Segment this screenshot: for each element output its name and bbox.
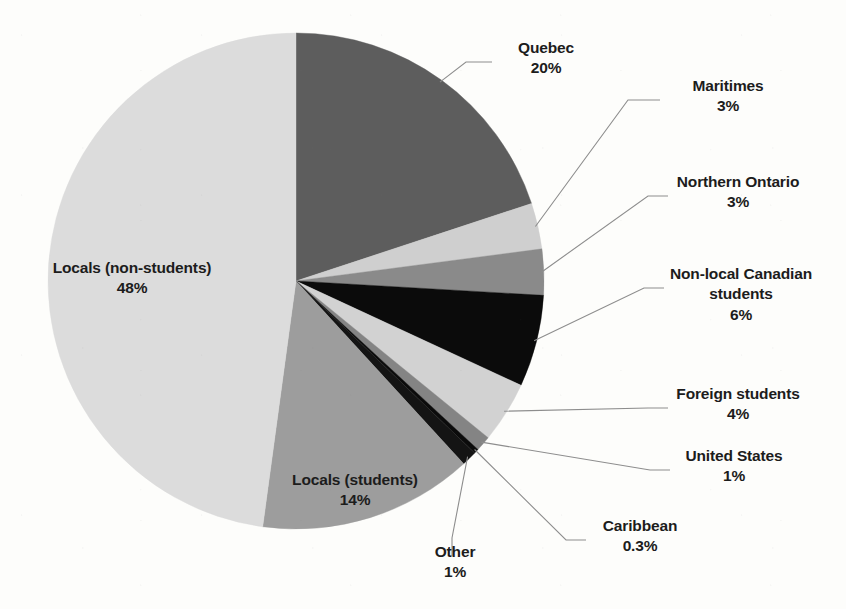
slice-label-united-states-name: United States [685, 447, 782, 464]
slice-label-locals-non-students-value: 48% [26, 278, 238, 298]
slice-label-foreign-students-value: 4% [660, 404, 816, 424]
leader-line [504, 408, 668, 411]
slice-label-caribbean-name: Caribbean [603, 517, 677, 534]
slice-label-northern-ontario: Northern Ontario 3% [658, 172, 818, 213]
slice-label-caribbean-value: 0.3% [578, 536, 702, 556]
slice-label-united-states-value: 1% [664, 466, 804, 486]
slice-label-northern-ontario-name: Northern Ontario [677, 173, 799, 190]
slice-label-united-states: United States 1% [664, 446, 804, 487]
slice-label-quebec-value: 20% [492, 58, 600, 78]
slice-label-quebec: Quebec 20% [492, 38, 600, 79]
slice-label-locals-non-students: Locals (non-students) 48% [26, 258, 238, 299]
slice-label-non-local-canadian-students-line2: students [656, 284, 826, 304]
slice-label-maritimes-value: 3% [666, 96, 790, 116]
slice-label-foreign-students-name: Foreign students [676, 385, 799, 402]
slice-label-other-name: Other [435, 543, 476, 560]
slice-label-northern-ontario-value: 3% [658, 192, 818, 212]
slice-label-quebec-name: Quebec [518, 39, 574, 56]
slice-label-foreign-students: Foreign students 4% [660, 384, 816, 425]
slice-label-locals-students-name: Locals (students) [292, 471, 418, 488]
leader-line [535, 100, 660, 227]
leader-line [534, 288, 664, 341]
slice-label-other-value: 1% [410, 562, 500, 582]
leader-line [481, 442, 670, 470]
slice-label-other: Other 1% [410, 542, 500, 583]
slice-label-locals-non-students-name: Locals (non-students) [53, 259, 212, 276]
slice-label-maritimes: Maritimes 3% [666, 76, 790, 117]
slice-label-non-local-canadian-students-value: 6% [656, 305, 826, 325]
slice-label-non-local-canadian-students: Non-local Canadian students 6% [656, 264, 826, 325]
slice-label-caribbean: Caribbean 0.3% [578, 516, 702, 557]
slice-label-locals-students-value: 14% [274, 490, 436, 510]
leader-line [440, 62, 492, 82]
slice-label-non-local-canadian-students-line1: Non-local Canadian [670, 265, 812, 282]
pie-chart-page: Quebec 20% Maritimes 3% Northern Ontario… [0, 0, 846, 609]
slice-label-locals-students: Locals (students) 14% [274, 470, 436, 511]
slice-label-maritimes-name: Maritimes [692, 77, 763, 94]
leader-line [541, 196, 668, 272]
leader-line [475, 450, 586, 541]
